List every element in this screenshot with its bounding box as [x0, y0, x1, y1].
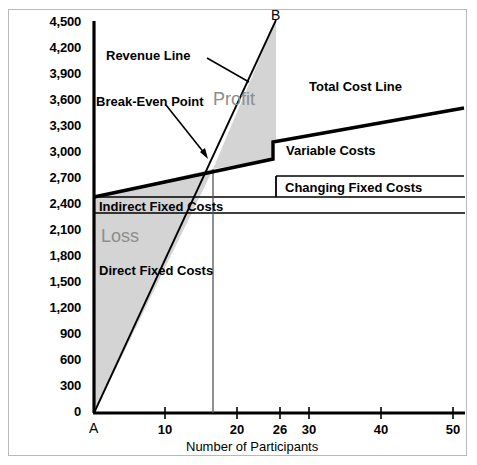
y-tick-label: 2,100: [19, 222, 81, 237]
y-tick-label: 4,200: [19, 40, 81, 55]
changing-fixed-costs-label: Changing Fixed Costs: [285, 180, 422, 195]
y-tick-label: 3,600: [19, 92, 81, 107]
x-tick-label: 10: [145, 422, 185, 437]
y-tick-label: 2,400: [19, 196, 81, 211]
y-tick-label: 300: [19, 378, 81, 393]
profit-region-label: Profit: [213, 89, 255, 110]
variable-costs-label: Variable Costs: [286, 143, 376, 158]
y-tick-label: 1,500: [19, 274, 81, 289]
y-tick-label: 3,900: [19, 66, 81, 81]
x-tick-label: 30: [289, 422, 329, 437]
y-tick-label: 2,700: [19, 170, 81, 185]
revenue-line-label: Revenue Line: [106, 48, 191, 63]
apex-point-label: B: [271, 7, 280, 23]
y-tick-label: 3,300: [19, 118, 81, 133]
break-even-chart: 4,500 4,200 3,900 3,600 3,300 3,000 2,70…: [0, 0, 477, 465]
y-tick-label: 4,500: [19, 14, 81, 29]
y-tick-label: 3,000: [19, 144, 81, 159]
x-tick-label: 50: [433, 422, 473, 437]
origin-point-label: A: [89, 420, 98, 436]
break-even-point-label: Break-Even Point: [96, 94, 204, 109]
x-axis-title: Number of Participants: [186, 439, 318, 454]
x-tick-label: 20: [217, 422, 257, 437]
x-tick-label: 40: [361, 422, 401, 437]
direct-fixed-costs-label: Direct Fixed Costs: [99, 263, 213, 278]
chart-frame: 4,500 4,200 3,900 3,600 3,300 3,000 2,70…: [8, 9, 467, 456]
break-even-point-arrow: [166, 105, 208, 159]
revenue-line-leader: [207, 58, 249, 82]
y-tick-label: 1,800: [19, 248, 81, 263]
indirect-fixed-costs-label: Indirect Fixed Costs: [99, 199, 223, 214]
y-tick-label: 0: [19, 404, 81, 419]
y-tick-label: 900: [19, 326, 81, 341]
loss-region-label: Loss: [101, 226, 139, 247]
y-tick-label: 600: [19, 352, 81, 367]
total-cost-line-label: Total Cost Line: [309, 79, 402, 94]
y-tick-label: 1,200: [19, 300, 81, 315]
